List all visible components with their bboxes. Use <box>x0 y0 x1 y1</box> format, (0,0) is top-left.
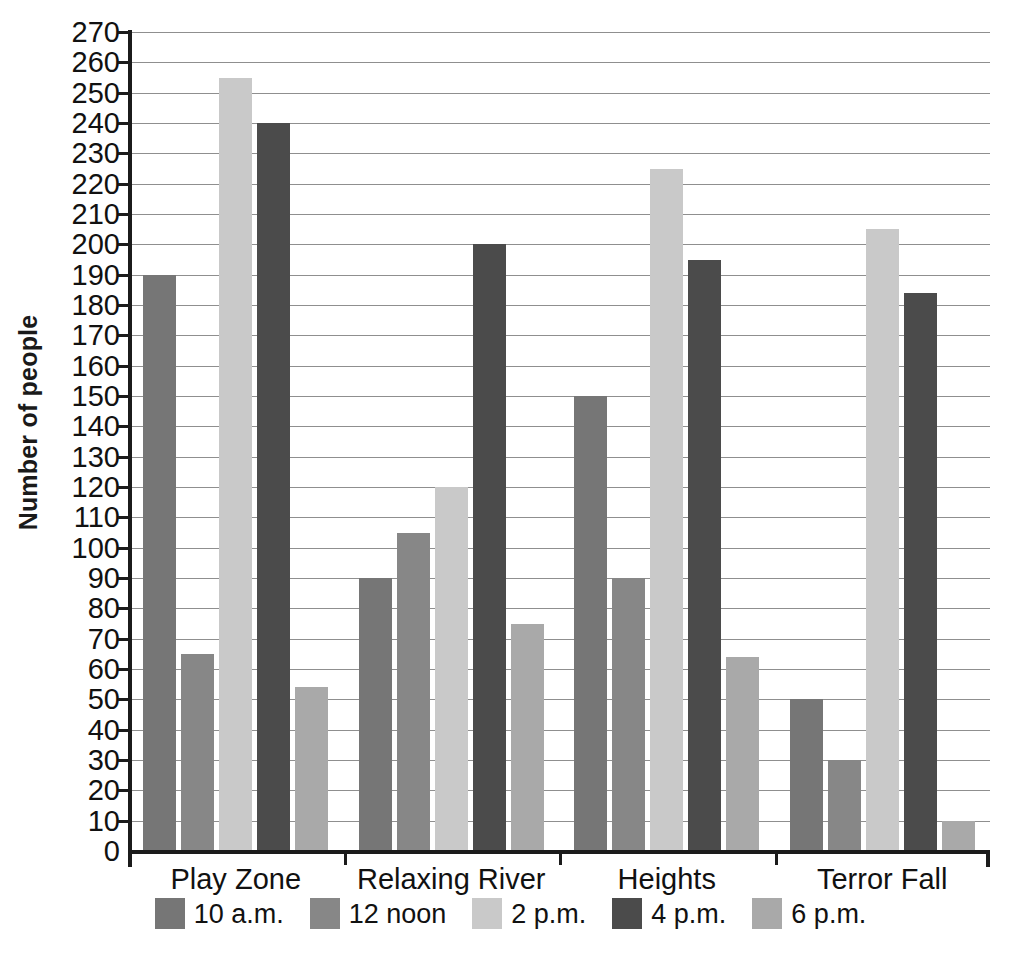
bar-group <box>344 32 560 851</box>
y-axis-tick-mark <box>118 183 130 186</box>
y-axis-tick-label: 130 <box>40 442 120 471</box>
x-axis-end-tick <box>986 851 990 867</box>
y-axis-tick-label: 60 <box>40 655 120 684</box>
y-axis-tick-mark <box>118 122 130 125</box>
bar-group <box>559 32 775 851</box>
y-axis-tick-label: 190 <box>40 260 120 289</box>
y-axis-tick-label: 0 <box>40 837 120 866</box>
chart-legend: 10 a.m.12 noon2 p.m.4 p.m.6 p.m. <box>0 898 1021 929</box>
y-axis-title: Number of people <box>14 273 43 573</box>
legend-swatch-icon <box>310 898 340 929</box>
x-axis-end-tick <box>128 851 132 867</box>
legend-item[interactable]: 6 p.m. <box>752 898 866 929</box>
legend-item[interactable]: 4 p.m. <box>612 898 726 929</box>
bar[interactable] <box>473 244 506 851</box>
y-axis-tick-mark <box>118 456 130 459</box>
y-axis-tick-label: 210 <box>40 200 120 229</box>
y-axis-tick-mark <box>118 547 130 550</box>
y-axis-tick-label: 200 <box>40 230 120 259</box>
y-axis-tick-mark <box>118 516 130 519</box>
y-axis-tick-label: 240 <box>40 109 120 138</box>
y-axis-tick-mark <box>118 425 130 428</box>
bar[interactable] <box>511 624 544 852</box>
y-axis-tick-label: 170 <box>40 321 120 350</box>
y-axis-tick-label: 70 <box>40 624 120 653</box>
y-axis-tick-label: 100 <box>40 533 120 562</box>
y-axis-tick-mark <box>118 820 130 823</box>
y-axis-tick-mark <box>118 759 130 762</box>
x-axis-category-label: Play Zone <box>128 863 344 895</box>
y-axis-tick-label: 220 <box>40 169 120 198</box>
y-axis-tick-label: 140 <box>40 412 120 441</box>
bar[interactable] <box>143 275 176 851</box>
x-axis-category-label: Terror Fall <box>775 863 991 895</box>
bar[interactable] <box>688 260 721 852</box>
y-axis-tick-mark <box>118 31 130 34</box>
chart-page: Number of people 01020304050607080901001… <box>0 0 1021 955</box>
bar-group <box>775 32 991 851</box>
y-axis-tick-label: 260 <box>40 48 120 77</box>
bar[interactable] <box>790 699 823 851</box>
legend-item[interactable]: 12 noon <box>310 898 447 929</box>
bar[interactable] <box>650 169 683 852</box>
y-axis-tick-label: 110 <box>40 503 120 532</box>
legend-swatch-icon <box>472 898 502 929</box>
bar[interactable] <box>181 654 214 851</box>
y-axis-tick-label: 150 <box>40 382 120 411</box>
y-axis-tick-labels: 0102030405060708090100110120130140150160… <box>40 18 120 880</box>
y-axis-tick-mark <box>118 243 130 246</box>
bar[interactable] <box>359 578 392 851</box>
legend-label: 4 p.m. <box>651 899 726 929</box>
y-axis-tick-mark <box>118 334 130 337</box>
plot-area <box>128 32 990 851</box>
y-axis-tick-mark <box>118 395 130 398</box>
y-axis-tick-mark <box>118 274 130 277</box>
x-axis-category-label: Relaxing River <box>344 863 560 895</box>
bar[interactable] <box>612 578 645 851</box>
y-axis-tick-mark <box>118 365 130 368</box>
y-axis-tick-label: 20 <box>40 776 120 805</box>
y-axis-tick-mark <box>118 92 130 95</box>
y-axis-tick-label: 230 <box>40 139 120 168</box>
bar[interactable] <box>942 821 975 851</box>
y-axis-tick-mark <box>118 486 130 489</box>
bar[interactable] <box>397 533 430 852</box>
bar[interactable] <box>574 396 607 851</box>
y-axis-tick-mark <box>118 729 130 732</box>
y-axis-tick-label: 270 <box>40 18 120 47</box>
y-axis-tick-label: 50 <box>40 685 120 714</box>
bar[interactable] <box>435 487 468 851</box>
legend-swatch-icon <box>155 898 185 929</box>
bar[interactable] <box>295 687 328 851</box>
y-axis-tick-mark <box>118 607 130 610</box>
bar[interactable] <box>904 293 937 851</box>
x-axis-separator-tick <box>559 851 562 865</box>
y-axis-tick-mark <box>118 698 130 701</box>
y-axis-tick-label: 30 <box>40 746 120 775</box>
y-axis-tick-label: 90 <box>40 564 120 593</box>
y-axis-tick-label: 120 <box>40 473 120 502</box>
bar[interactable] <box>726 657 759 851</box>
bar[interactable] <box>257 123 290 851</box>
legend-item[interactable]: 10 a.m. <box>155 898 284 929</box>
y-axis-tick-label: 10 <box>40 806 120 835</box>
legend-label: 2 p.m. <box>511 899 586 929</box>
legend-label: 12 noon <box>349 899 447 929</box>
legend-swatch-icon <box>612 898 642 929</box>
legend-item[interactable]: 2 p.m. <box>472 898 586 929</box>
legend-label: 10 a.m. <box>194 899 284 929</box>
x-axis-category-labels: Play ZoneRelaxing RiverHeightsTerror Fal… <box>128 851 990 895</box>
bar[interactable] <box>866 229 899 851</box>
y-axis-tick-mark <box>118 61 130 64</box>
x-axis-category-label: Heights <box>559 863 775 895</box>
bar[interactable] <box>219 78 252 852</box>
x-axis-separator-tick <box>344 851 347 865</box>
y-axis-tick-mark <box>118 668 130 671</box>
y-axis-tick-mark <box>118 638 130 641</box>
y-axis-tick-mark <box>118 152 130 155</box>
bar[interactable] <box>828 760 861 851</box>
y-axis-tick-mark <box>118 577 130 580</box>
legend-swatch-icon <box>752 898 782 929</box>
legend-label: 6 p.m. <box>791 899 866 929</box>
bars-layer <box>128 32 990 851</box>
